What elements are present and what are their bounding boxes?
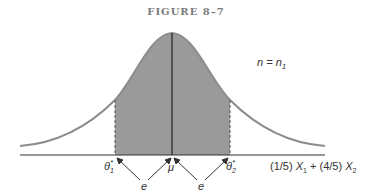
e-label-left: e (141, 180, 147, 192)
arrow-e-right-to-mu (174, 158, 197, 180)
theta1-star-label: θ1* (104, 158, 114, 174)
axis-expression-label: (1/5) X1 + (4/5) X2 (270, 160, 357, 174)
sample-size-annotation: n = n1 (257, 56, 286, 71)
e-label-right: e (198, 180, 204, 192)
arrow-e-right-to-theta2 (205, 158, 228, 180)
arrow-e-left-to-theta1 (117, 158, 140, 180)
theta2-star-label: θ2* (226, 158, 236, 174)
normal-curve-diagram: n = n1 θ1* μ θ2* e e (1/5) X1 + (4/5) X2 (0, 0, 372, 196)
mu-label: μ (167, 161, 174, 173)
